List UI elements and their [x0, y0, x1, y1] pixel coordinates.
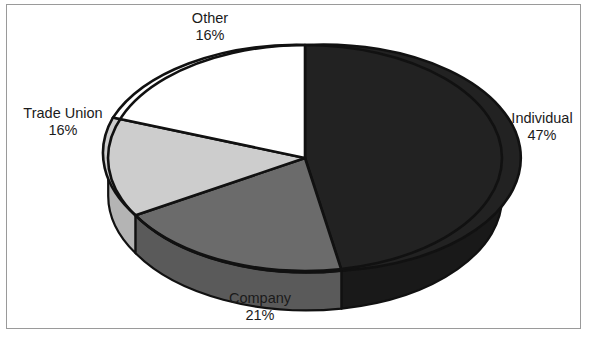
pie-label-company-name: Company: [186, 290, 334, 307]
pie-label-other-name: Other: [150, 10, 270, 27]
pie-label-company: Company 21%: [186, 290, 334, 324]
pie-label-trade-union: Trade Union 16%: [2, 105, 124, 139]
pie-label-trade-union-value: 16%: [2, 122, 124, 139]
pie-label-company-value: 21%: [186, 307, 334, 324]
pie-label-individual: Individual 47%: [494, 110, 590, 144]
pie-label-other-value: 16%: [150, 27, 270, 44]
pie-label-other: Other 16%: [150, 10, 270, 44]
pie-label-trade-union-name: Trade Union: [2, 105, 124, 122]
pie-chart-screenshot: Other 16% Trade Union 16% Individual 47%…: [0, 0, 591, 344]
pie-label-individual-name: Individual: [494, 110, 590, 127]
pie-body: [103, 45, 521, 311]
pie-label-individual-value: 47%: [494, 127, 590, 144]
